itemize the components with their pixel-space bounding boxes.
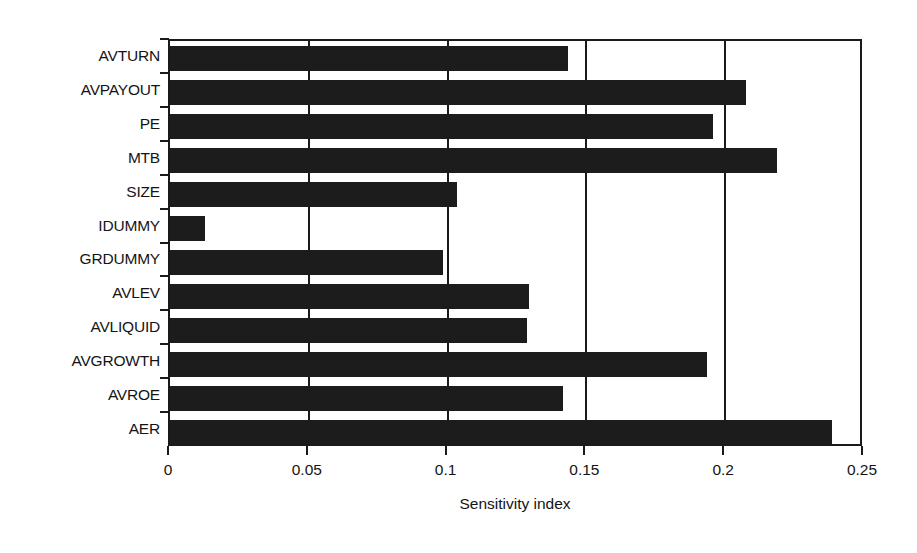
- x-axis-tick-label: 0.1: [406, 461, 486, 479]
- x-axis-tick: [445, 446, 447, 455]
- y-axis-tick-label: PE: [0, 116, 160, 132]
- y-axis-tick-label: MTB: [0, 150, 160, 166]
- x-axis-tick: [167, 446, 169, 455]
- y-axis-tick-label: AER: [0, 421, 160, 437]
- x-axis-tick: [306, 446, 308, 455]
- bar: [170, 318, 527, 343]
- bar: [170, 352, 707, 377]
- y-axis-tick-label: AVLEV: [0, 285, 160, 301]
- plot-area: [168, 39, 862, 446]
- bar: [170, 80, 746, 105]
- bar: [170, 114, 713, 139]
- x-axis-tick-label: 0.05: [267, 461, 347, 479]
- y-axis-tick-label: GRDUMMY: [0, 251, 160, 267]
- x-axis-tick-label: 0.15: [544, 461, 624, 479]
- bar: [170, 420, 832, 445]
- x-axis-tick: [583, 446, 585, 455]
- bar: [170, 46, 568, 71]
- bar: [170, 386, 563, 411]
- x-axis-tick: [861, 446, 863, 455]
- y-axis-tick-label: AVPAYOUT: [0, 82, 160, 98]
- y-axis-tick-label: IDUMMY: [0, 218, 160, 234]
- x-axis-tick: [722, 446, 724, 455]
- y-axis-tick-label: AVGROWTH: [0, 353, 160, 369]
- y-axis-tick-label: SIZE: [0, 184, 160, 200]
- bar: [170, 284, 529, 309]
- y-axis-tick-label: AVROE: [0, 387, 160, 403]
- bar: [170, 250, 443, 275]
- bar: [170, 216, 205, 241]
- sensitivity-index-bar-chart: AVTURNAVPAYOUTPEMTBSIZEIDUMMYGRDUMMYAVLE…: [0, 0, 917, 553]
- bar: [170, 148, 777, 173]
- x-axis-tick-label: 0: [128, 461, 208, 479]
- bar: [170, 182, 457, 207]
- y-axis-tick-label: AVLIQUID: [0, 319, 160, 335]
- x-axis-tick-label: 0.2: [683, 461, 763, 479]
- x-axis-title: Sensitivity index: [168, 495, 862, 513]
- x-axis-tick-label: 0.25: [822, 461, 902, 479]
- y-axis-tick-label: AVTURN: [0, 48, 160, 64]
